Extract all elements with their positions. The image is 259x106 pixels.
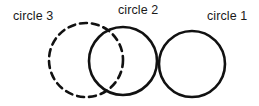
circle-3-dashed-shape xyxy=(49,23,123,97)
circle-2-label: circle 2 xyxy=(118,4,158,17)
circle-3-label: circle 3 xyxy=(13,10,53,23)
circles-diagram: circle 3 circle 2 circle 1 xyxy=(0,0,259,106)
circle-1-solid-shape xyxy=(159,31,225,97)
circle-1-label: circle 1 xyxy=(207,10,247,23)
